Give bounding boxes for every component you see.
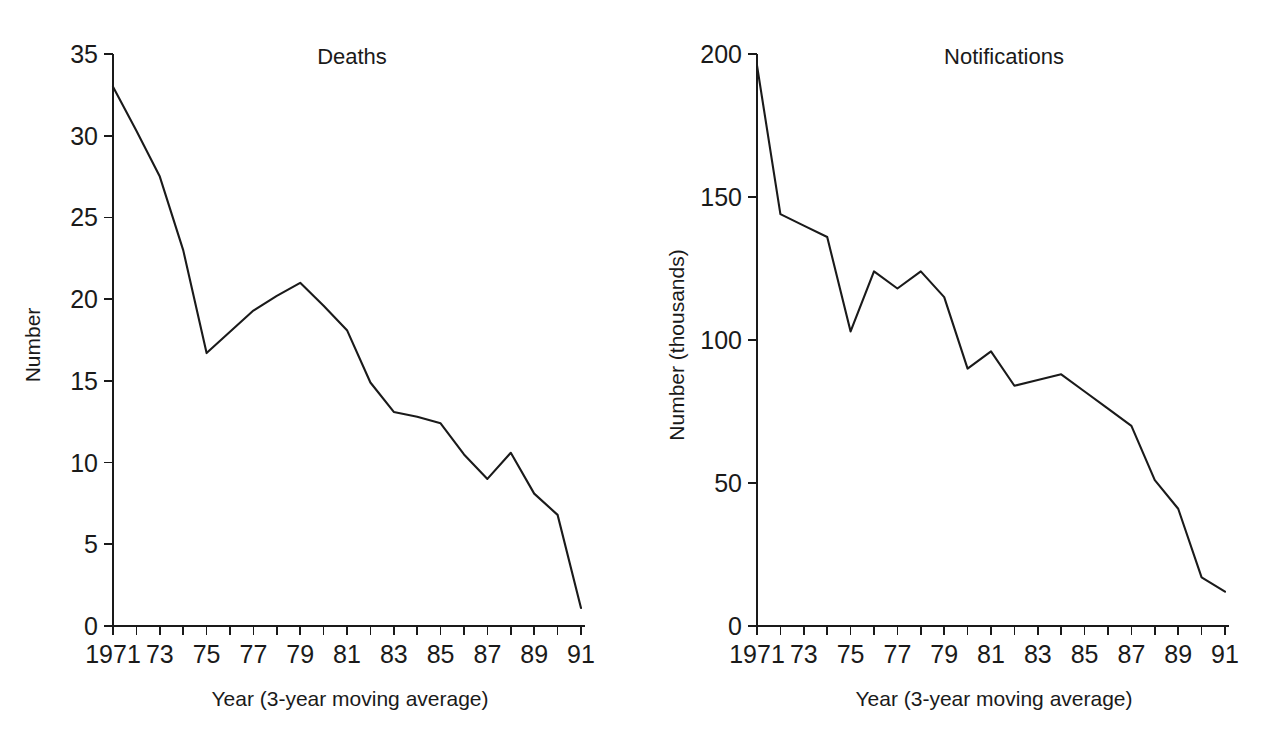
x-tick-label: 73 [790, 640, 818, 668]
y-tick-label: 200 [700, 40, 742, 68]
x-tick-label: 83 [380, 640, 408, 668]
y-tick-label: 150 [700, 183, 742, 211]
x-tick-label: 85 [427, 640, 455, 668]
x-tick-label: 79 [930, 640, 958, 668]
y-tick-label: 10 [70, 449, 98, 477]
y-tick-label: 0 [728, 612, 742, 640]
x-tick-label: 77 [239, 640, 267, 668]
x-tick-label: 87 [1117, 640, 1145, 668]
notifications-x-tick-labels: 197173757779818385878991 [729, 640, 1239, 668]
deaths-chart-svg: 05101520253035 197173757779818385878991 … [0, 0, 644, 720]
figure-bottom-margin [0, 720, 1288, 745]
x-tick-label: 81 [333, 640, 361, 668]
x-tick-label: 81 [977, 640, 1005, 668]
x-tick-label: 91 [567, 640, 595, 668]
notifications-x-axis-label: Year (3-year moving average) [855, 687, 1132, 710]
x-tick-label: 89 [520, 640, 548, 668]
y-tick-label: 100 [700, 326, 742, 354]
y-tick-label: 30 [70, 122, 98, 150]
panel-notifications: 050100150200 197173757779818385878991 No… [644, 0, 1288, 720]
x-tick-label: 73 [146, 640, 174, 668]
x-tick-label: 91 [1211, 640, 1239, 668]
panel-deaths: 05101520253035 197173757779818385878991 … [0, 0, 644, 720]
notifications-axes [757, 54, 1229, 626]
deaths-data-line [113, 87, 581, 608]
x-tick-label: 83 [1024, 640, 1052, 668]
x-tick-label: 75 [837, 640, 865, 668]
y-tick-label: 25 [70, 203, 98, 231]
x-tick-label: 89 [1164, 640, 1192, 668]
deaths-x-tick-labels: 197173757779818385878991 [85, 640, 595, 668]
x-tick-label: 85 [1071, 640, 1099, 668]
notifications-chart-title: Notifications [944, 44, 1064, 69]
deaths-x-axis-label: Year (3-year moving average) [211, 687, 488, 710]
deaths-y-ticks [104, 54, 113, 626]
panels-container: 05101520253035 197173757779818385878991 … [0, 0, 1288, 720]
y-tick-label: 5 [84, 530, 98, 558]
y-tick-label: 35 [70, 40, 98, 68]
x-tick-label: 75 [193, 640, 221, 668]
notifications-x-ticks [757, 626, 1225, 635]
notifications-y-axis-label: Number (thousands) [665, 249, 688, 440]
deaths-chart-title: Deaths [317, 44, 387, 69]
notifications-y-ticks [748, 54, 757, 626]
deaths-y-axis-label: Number [21, 308, 44, 383]
x-tick-label: 1971 [729, 640, 785, 668]
x-tick-label: 87 [473, 640, 501, 668]
y-tick-label: 50 [714, 469, 742, 497]
deaths-x-ticks [113, 626, 581, 635]
deaths-y-tick-labels: 05101520253035 [70, 40, 98, 640]
y-tick-label: 15 [70, 367, 98, 395]
x-tick-label: 77 [883, 640, 911, 668]
y-tick-label: 20 [70, 285, 98, 313]
x-tick-label: 79 [286, 640, 314, 668]
deaths-axes [113, 54, 585, 626]
x-tick-label: 1971 [85, 640, 141, 668]
y-tick-label: 0 [84, 612, 98, 640]
figure-twin-line-charts: 05101520253035 197173757779818385878991 … [0, 0, 1288, 745]
notifications-y-tick-labels: 050100150200 [700, 40, 742, 640]
notifications-chart-svg: 050100150200 197173757779818385878991 No… [644, 0, 1288, 720]
notifications-data-line [757, 65, 1225, 591]
